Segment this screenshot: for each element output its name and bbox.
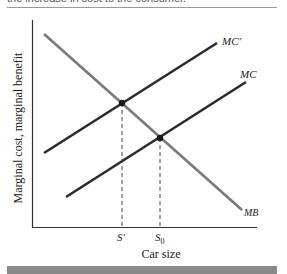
s0-tick-sub: 0 (161, 237, 165, 246)
s-prime-equilibrium-point (119, 100, 125, 106)
mc-prime-curve (44, 43, 217, 153)
mc-prime-label: MC′ (221, 35, 242, 47)
mc-label: MC (239, 68, 257, 80)
s0-tick-label: S0 (155, 231, 165, 246)
bottom-bar (7, 266, 277, 274)
x-axis-label: Car size (142, 247, 181, 261)
s0-equilibrium-point (157, 135, 163, 141)
diagram-svg: MC′ MC MB S′ S0 Car size Marginal cost, … (0, 0, 287, 274)
mb-label: MB (243, 207, 258, 218)
s-prime-tick-label: S′ (117, 231, 126, 243)
mc-curve (66, 82, 246, 197)
mb-curve (44, 34, 242, 210)
y-axis-label: Marginal cost, marginal benefit (11, 52, 25, 204)
